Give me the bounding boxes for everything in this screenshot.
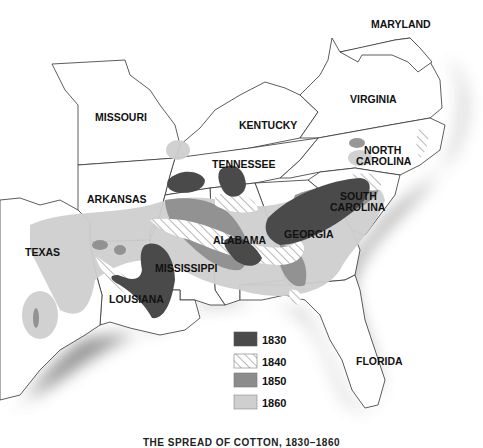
label-texas: TEXAS — [25, 246, 60, 258]
label-virginia: VIRGINIA — [350, 93, 397, 105]
label-north-carolina-2: CAROLINA — [356, 155, 412, 167]
legend-label-1830: 1830 — [262, 334, 286, 346]
legend-item-1850: 1850 — [234, 373, 286, 387]
label-south-carolina-2: CAROLINA — [330, 201, 386, 213]
label-kentucky: KENTUCKY — [239, 119, 297, 131]
legend-swatch-1830 — [234, 332, 257, 346]
label-louisiana: LOUSIANA — [109, 293, 164, 305]
legend-label-1850: 1850 — [262, 375, 286, 387]
map-caption: THE SPREAD OF COTTON, 1830–1860 — [0, 437, 483, 448]
legend-item-1830: 1830 — [234, 332, 286, 346]
label-tennessee: TENNESSEE — [212, 158, 276, 170]
label-missouri: MISSOURI — [95, 111, 147, 123]
label-maryland: MARYLAND — [371, 18, 431, 30]
legend: 1830 1840 1850 1860 — [234, 332, 286, 409]
legend-label-1840: 1840 — [262, 356, 286, 368]
legend-swatch-1840 — [234, 354, 257, 368]
legend-label-1860: 1860 — [262, 397, 286, 409]
label-georgia: GEORGIA — [284, 228, 334, 240]
label-mississippi: MISSISSIPPI — [155, 262, 218, 274]
legend-swatch-1860 — [234, 395, 257, 409]
label-florida: FLORIDA — [356, 355, 403, 367]
label-alabama: ALABAMA — [213, 234, 266, 246]
legend-swatch-1850 — [234, 373, 257, 387]
legend-item-1860: 1860 — [234, 395, 286, 409]
legend-item-1840: 1840 — [234, 354, 286, 368]
label-arkansas: ARKANSAS — [87, 193, 147, 205]
